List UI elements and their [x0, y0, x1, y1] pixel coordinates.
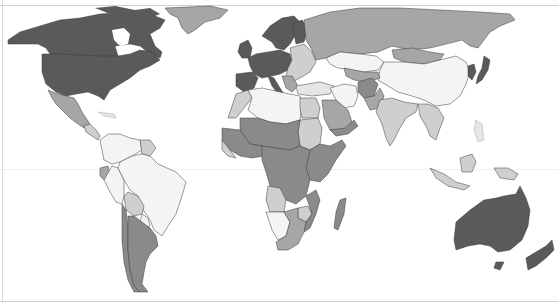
- region-central-america[interactable]: [84, 124, 100, 140]
- region-united-states[interactable]: [42, 50, 160, 100]
- region-borneo[interactable]: [460, 154, 476, 172]
- region-papua-new-guinea[interactable]: [494, 168, 518, 180]
- region-mexico[interactable]: [48, 90, 90, 128]
- map-canvas: [0, 0, 559, 303]
- region-australia[interactable]: [454, 186, 530, 252]
- africa: [222, 88, 358, 250]
- region-kazakhstan[interactable]: [326, 52, 384, 72]
- oceania: [454, 186, 554, 270]
- region-new-zealand[interactable]: [526, 240, 554, 270]
- region-turkey[interactable]: [296, 82, 334, 96]
- region-india[interactable]: [376, 98, 418, 146]
- region-tasmania[interactable]: [494, 262, 504, 270]
- region-caribbean: [98, 112, 116, 118]
- asia: [304, 8, 518, 190]
- region-guianas[interactable]: [140, 140, 156, 156]
- region-korea[interactable]: [468, 64, 476, 80]
- region-western-europe[interactable]: [248, 50, 292, 78]
- region-egypt[interactable]: [300, 98, 320, 118]
- region-philippines: [474, 120, 484, 142]
- region-madagascar[interactable]: [334, 198, 346, 230]
- region-uk[interactable]: [238, 40, 252, 58]
- north-america: [8, 6, 228, 140]
- region-greenland[interactable]: [165, 6, 228, 34]
- region-morocco[interactable]: [228, 90, 252, 118]
- south-america: [100, 134, 186, 292]
- region-southeast-asia[interactable]: [418, 104, 444, 140]
- world-map: [0, 0, 559, 303]
- region-japan[interactable]: [476, 56, 490, 84]
